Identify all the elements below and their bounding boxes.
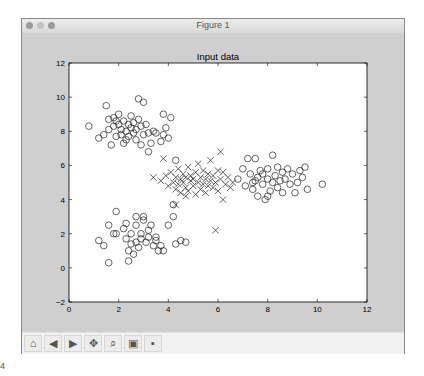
y-tick-label: −2	[56, 298, 66, 307]
save-icon: ▪	[151, 337, 155, 349]
title-bar[interactable]: Figure 1	[22, 19, 404, 34]
x-tick-label: 6	[216, 305, 221, 314]
y-tick-label: 2	[61, 230, 66, 239]
chart-title: Input data	[197, 51, 240, 62]
figure-window: Figure 1 Input data024681012−2024681012 …	[21, 18, 405, 354]
forward-icon: ▶	[69, 337, 77, 349]
navigation-toolbar: ⌂◀▶✥⌕▣▪	[22, 332, 404, 354]
x-tick-label: 12	[363, 305, 372, 314]
pan-icon: ✥	[89, 337, 98, 349]
y-tick-label: 8	[61, 127, 66, 136]
back-icon: ◀	[49, 337, 57, 349]
x-tick-label: 2	[116, 305, 121, 314]
x-tick-label: 8	[265, 305, 270, 314]
x-tick-label: 0	[67, 305, 72, 314]
zoom-icon: ⌕	[110, 337, 116, 349]
y-tick-label: 4	[61, 196, 66, 205]
configure-subplots-icon: ▣	[128, 337, 138, 349]
home-icon: ⌂	[30, 337, 37, 349]
home-button[interactable]: ⌂	[24, 335, 42, 352]
plot-area	[69, 63, 367, 302]
y-tick-label: 6	[61, 161, 66, 170]
x-tick-label: 4	[166, 305, 171, 314]
scatter-plot: Input data024681012−2024681012	[22, 33, 406, 332]
zoom-button[interactable]: ⌕	[104, 335, 122, 352]
configure-subplots-button[interactable]: ▣	[124, 335, 142, 352]
corner-text: 4	[0, 361, 5, 371]
y-tick-label: 0	[61, 264, 66, 273]
y-tick-label: 10	[56, 93, 65, 102]
back-button[interactable]: ◀	[44, 335, 62, 352]
x-tick-label: 10	[313, 305, 322, 314]
pan-button[interactable]: ✥	[84, 335, 102, 352]
save-button[interactable]: ▪	[144, 335, 162, 352]
window-title: Figure 1	[22, 20, 404, 30]
y-tick-label: 12	[56, 59, 65, 68]
figure-canvas: Input data024681012−2024681012	[22, 33, 404, 332]
forward-button[interactable]: ▶	[64, 335, 82, 352]
